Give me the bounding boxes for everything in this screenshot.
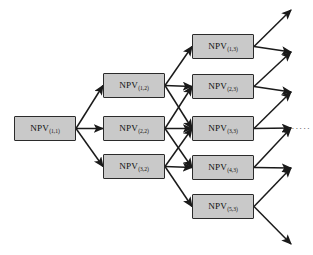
npv-node-n3_3[interactable]: NPV(3,3) bbox=[192, 116, 254, 141]
open-edge-n3_3-4 bbox=[254, 92, 291, 129]
npv-node-label: NPV(1,3) bbox=[208, 42, 238, 51]
edge-n3_2-to-n4_3 bbox=[165, 167, 192, 168]
npv-node-n2_2[interactable]: NPV(2,2) bbox=[103, 116, 165, 141]
npv-node-subscript: (2,3) bbox=[227, 86, 238, 92]
edge-n3_2-to-n5_3 bbox=[165, 167, 192, 207]
edge-n1_1-to-n3_2 bbox=[76, 129, 103, 167]
npv-node-n1_1[interactable]: NPV(1,1) bbox=[14, 116, 76, 141]
open-edges bbox=[254, 10, 291, 244]
open-edge-n3_3-5 bbox=[254, 128, 291, 129]
npv-node-subscript: (1,2) bbox=[138, 85, 149, 91]
npv-node-label: NPV(4,3) bbox=[208, 163, 238, 172]
npv-node-subscript: (5,3) bbox=[227, 206, 238, 212]
npv-node-n1_3[interactable]: NPV(1,3) bbox=[192, 34, 254, 59]
npv-node-label: NPV(3,2) bbox=[119, 162, 149, 171]
edge-n1_1-to-n1_2 bbox=[76, 86, 103, 129]
npv-node-n2_3[interactable]: NPV(2,3) bbox=[192, 74, 254, 99]
open-edge-n5_3-8 bbox=[254, 168, 291, 207]
continuation-ellipsis: ...... bbox=[288, 122, 311, 131]
npv-node-label: NPV(2,3) bbox=[208, 82, 238, 91]
open-edge-n1_3-1 bbox=[254, 47, 291, 53]
open-edge-n2_3-3 bbox=[254, 87, 291, 93]
open-edge-n5_3-9 bbox=[254, 207, 291, 245]
npv-node-n4_3[interactable]: NPV(4,3) bbox=[192, 155, 254, 180]
edge-n1_2-to-n1_3 bbox=[165, 47, 192, 86]
open-edge-n2_3-2 bbox=[254, 52, 291, 87]
npv-node-subscript: (4,3) bbox=[227, 167, 238, 173]
open-edge-n4_3-6 bbox=[254, 128, 291, 168]
edge-n1_2-to-n2_3 bbox=[165, 86, 192, 87]
npv-node-label: NPV(5,3) bbox=[208, 202, 238, 211]
npv-node-subscript: (1,3) bbox=[227, 46, 238, 52]
npv-node-label: NPV(1,1) bbox=[30, 124, 60, 133]
npv-node-n1_2[interactable]: NPV(1,2) bbox=[103, 73, 165, 98]
diagram-canvas: NPV(1,1)NPV(1,2)NPV(2,2)NPV(3,2)NPV(1,3)… bbox=[0, 0, 313, 255]
npv-node-label: NPV(1,2) bbox=[119, 81, 149, 90]
npv-node-subscript: (3,2) bbox=[138, 166, 149, 172]
open-edge-n4_3-7 bbox=[254, 168, 291, 169]
npv-node-n3_2[interactable]: NPV(3,2) bbox=[103, 154, 165, 179]
npv-node-n5_3[interactable]: NPV(5,3) bbox=[192, 194, 254, 219]
npv-node-label: NPV(3,3) bbox=[208, 124, 238, 133]
npv-node-subscript: (1,1) bbox=[49, 128, 60, 134]
npv-node-subscript: (2,2) bbox=[138, 128, 149, 134]
open-edge-n1_3-0 bbox=[254, 10, 291, 47]
npv-node-subscript: (3,3) bbox=[227, 128, 238, 134]
npv-node-label: NPV(2,2) bbox=[119, 124, 149, 133]
